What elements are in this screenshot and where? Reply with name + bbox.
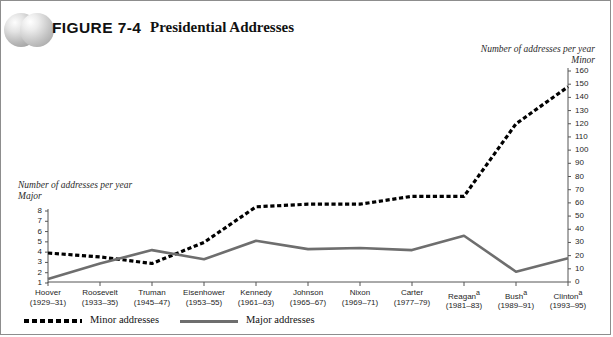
x-axis-label-footnote: a <box>476 289 480 296</box>
left-axis-tick-label: 5 <box>28 237 42 246</box>
right-axis-caption: Number of addresses per year Minor <box>481 44 595 66</box>
right-axis-tick-label: 110 <box>575 132 597 141</box>
figure-page: FIGURE 7-4 Presidential Addresses Number… <box>0 0 613 337</box>
x-axis-label: Clintona(1993–95) <box>534 288 602 311</box>
left-axis-caption: Number of addresses per year Major <box>18 180 132 202</box>
legend-label-minor: Minor addresses <box>90 314 159 325</box>
legend-label-major: Major addresses <box>246 314 315 325</box>
right-axis-tick-label: 50 <box>575 211 597 220</box>
left-axis-caption-line2: Major <box>18 191 132 202</box>
right-axis-tick-label: 10 <box>575 264 597 273</box>
left-axis-caption-line1: Number of addresses per year <box>18 180 132 191</box>
left-axis-tick-label: 6 <box>28 227 42 236</box>
x-axis-label-footnote: a <box>579 289 583 296</box>
x-axis-label-footnote: a <box>523 289 527 296</box>
disc-front-icon <box>20 13 54 47</box>
chart-legend: Minor addresses Major addresses <box>0 314 613 332</box>
right-axis-tick-label: 130 <box>575 106 597 115</box>
left-axis-tick-label: 1 <box>28 278 42 287</box>
figure-header: FIGURE 7-4 Presidential Addresses <box>0 4 420 48</box>
x-axis-label-years: (1993–95) <box>534 301 602 311</box>
left-axis-tick-label: 3 <box>28 257 42 266</box>
right-axis-tick-label: 40 <box>575 224 597 233</box>
right-axis-caption-line1: Number of addresses per year <box>481 44 595 55</box>
right-axis-tick-label: 160 <box>575 66 597 75</box>
right-axis-tick-label: 60 <box>575 198 597 207</box>
left-axis-tick-label: 2 <box>28 268 42 277</box>
right-axis-tick-label: 90 <box>575 158 597 167</box>
right-axis-tick-label: 0 <box>575 277 597 286</box>
right-axis-caption-line2: Minor <box>481 55 595 66</box>
left-axis-tick-label: 4 <box>28 247 42 256</box>
right-axis-tick-label: 100 <box>575 145 597 154</box>
figure-label: FIGURE 7-4 <box>52 19 141 37</box>
x-axis-label-name: Clintona <box>534 288 602 301</box>
legend-swatch-major-icon <box>180 320 238 323</box>
right-axis-tick-label: 20 <box>575 251 597 260</box>
right-axis-tick-label: 80 <box>575 172 597 181</box>
right-axis-tick-label: 150 <box>575 79 597 88</box>
right-axis-tick-label: 70 <box>575 185 597 194</box>
left-axis-tick-label: 8 <box>28 206 42 215</box>
right-axis-tick-label: 120 <box>575 119 597 128</box>
figure-title: Presidential Addresses <box>150 19 294 36</box>
left-axis-tick-label: 7 <box>28 216 42 225</box>
right-axis-tick-label: 30 <box>575 237 597 246</box>
right-axis-tick-label: 140 <box>575 92 597 101</box>
legend-swatch-minor-icon <box>24 319 82 323</box>
